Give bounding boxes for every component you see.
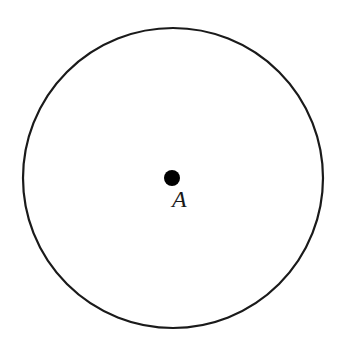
circle-diagram: A xyxy=(0,0,343,343)
center-label: A xyxy=(170,186,187,212)
center-point xyxy=(164,170,180,186)
